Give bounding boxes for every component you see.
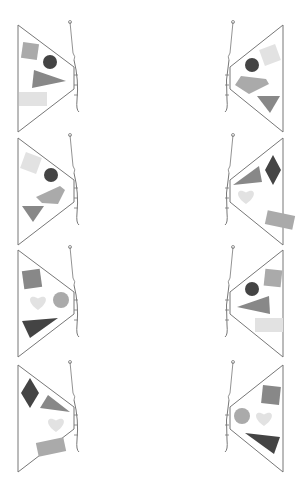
- circle-shape: [234, 408, 250, 424]
- antenna: [70, 247, 75, 285]
- circle-shape: [245, 282, 259, 296]
- antenna: [228, 362, 233, 400]
- antenna: [70, 135, 75, 173]
- wing-outline: [18, 365, 74, 472]
- left-butterfly: [18, 361, 79, 473]
- antenna: [70, 362, 75, 400]
- heart-shape: [48, 419, 64, 432]
- butterfly-body: [225, 173, 229, 225]
- right-butterfly: [225, 21, 283, 133]
- butterfly-body: [74, 60, 79, 112]
- triangle-shape: [245, 433, 280, 454]
- heart-shape: [238, 191, 254, 204]
- rect-shape: [265, 210, 295, 230]
- triangle-shape: [22, 206, 44, 222]
- heart-shape: [256, 413, 272, 426]
- left-butterfly: [18, 246, 79, 358]
- butterfly-body: [225, 285, 229, 337]
- heart-shape: [30, 297, 46, 310]
- circle-shape: [245, 58, 259, 72]
- antenna: [228, 22, 233, 60]
- rect-shape: [255, 318, 283, 332]
- butterfly-worksheet: [0, 0, 299, 499]
- diamond-shape: [265, 155, 281, 185]
- triangle-shape: [40, 395, 70, 412]
- butterfly-body: [225, 400, 229, 452]
- butterfly-body: [74, 173, 79, 225]
- square-shape: [20, 152, 42, 174]
- left-butterfly: [18, 134, 79, 246]
- triangle-shape: [257, 96, 280, 113]
- left-butterfly: [18, 21, 79, 133]
- square-shape: [259, 44, 281, 66]
- right-butterfly: [225, 246, 283, 358]
- butterfly-body: [225, 60, 229, 112]
- square-shape: [22, 269, 42, 289]
- rect-shape: [36, 437, 66, 457]
- right-butterfly: [225, 361, 283, 473]
- antenna: [228, 135, 233, 173]
- antenna: [70, 22, 75, 60]
- triangle-shape: [233, 166, 262, 185]
- quad-shape: [235, 76, 269, 94]
- diamond-shape: [21, 378, 39, 408]
- triangle-shape: [22, 318, 58, 338]
- circle-shape: [43, 55, 57, 69]
- square-shape: [21, 42, 39, 60]
- right-butterfly: [225, 134, 295, 246]
- wing-outline: [230, 138, 283, 245]
- triangle-shape: [32, 70, 66, 88]
- antenna: [228, 247, 233, 285]
- quad-shape: [36, 186, 65, 204]
- triangle-shape: [237, 296, 270, 314]
- butterfly-body: [74, 285, 79, 337]
- square-shape: [261, 385, 281, 405]
- circle-shape: [44, 168, 58, 182]
- rect-shape: [19, 92, 47, 106]
- butterfly-body: [74, 400, 79, 452]
- circle-shape: [53, 292, 69, 308]
- square-shape: [264, 269, 283, 288]
